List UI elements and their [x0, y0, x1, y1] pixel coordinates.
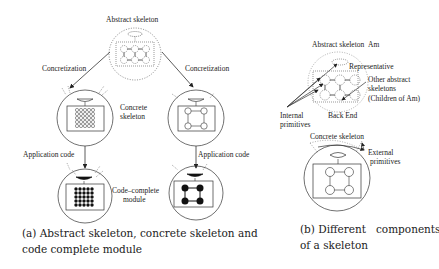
panel-a: Abstract skeleton Concretization Concret…: [22, 15, 258, 255]
code-complete-module-left: [58, 163, 112, 223]
caption-b-line-2: of a skeleton: [300, 239, 368, 251]
application-code-label-right: Application code: [198, 150, 250, 159]
concretization-label-right: Concretization: [185, 64, 229, 73]
concrete-skeleton-label-2: skeleton: [120, 112, 145, 121]
concrete-skeleton-label-1: Concrete: [120, 103, 148, 112]
back-end-label: Back End: [328, 111, 358, 120]
other-abstract-label-2: skeletons: [368, 84, 396, 93]
caption-a-line-1: (a) Abstract skeleton, concrete skeleton…: [22, 227, 258, 239]
panel-b: Abstract skeleton Am Representative Othe…: [280, 40, 439, 251]
caption-b-line-1: (b) Different components: [300, 223, 439, 235]
other-abstract-label-3: (Children of Am): [368, 94, 421, 103]
concrete-skeleton-b: [304, 140, 370, 211]
code-complete-label-2: module: [123, 195, 146, 204]
concrete-skeleton-right: [168, 90, 224, 146]
application-code-label-left: Application code: [23, 150, 75, 159]
figure: Abstract skeleton Concretization Concret…: [0, 0, 439, 269]
am-label: Am: [368, 40, 379, 49]
internal-primitives-arrows: [287, 64, 337, 107]
abstract-skeleton-am: [308, 52, 368, 112]
representative-label: Representative: [349, 62, 394, 71]
external-primitives-label-2: primitives: [370, 157, 400, 166]
abstract-skeleton-label: Abstract skeleton: [106, 15, 159, 24]
internal-primitives-label-1: Internal: [280, 111, 303, 120]
code-complete-label-1: Code–complete: [112, 186, 160, 195]
concretization-label-left: Concretization: [42, 64, 86, 73]
concrete-skeleton-label-b: Concrete skeleton: [310, 132, 364, 141]
other-abstract-label-1: Other abstract: [368, 75, 411, 84]
abstract-skeleton-node: [109, 28, 161, 80]
caption-a-line-2: code complete module: [22, 243, 142, 255]
internal-primitives-label-2: primitives: [280, 120, 310, 129]
concrete-skeleton-left: [57, 86, 113, 146]
code-complete-module-right: [169, 164, 223, 220]
external-primitives-label-1: External: [368, 148, 393, 157]
abstract-skeleton-label-b: Abstract skeleton: [312, 40, 365, 49]
